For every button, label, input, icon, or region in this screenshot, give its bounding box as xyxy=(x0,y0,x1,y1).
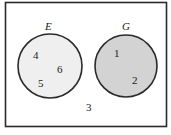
element-1: 1 xyxy=(114,47,120,59)
set-e-circle xyxy=(18,34,82,98)
element-6: 6 xyxy=(57,63,63,75)
element-2: 2 xyxy=(132,74,138,86)
set-g-circle xyxy=(95,35,157,97)
element-5: 5 xyxy=(38,77,44,89)
set-g-label: G xyxy=(122,20,130,32)
element-3: 3 xyxy=(86,101,92,113)
element-4: 4 xyxy=(33,49,39,61)
venn-diagram: E 4 6 5 G 1 2 3 xyxy=(0,0,171,135)
set-e-label: E xyxy=(44,20,52,32)
